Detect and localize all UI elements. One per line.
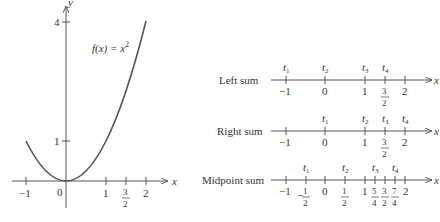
svg-text:1: 1 bbox=[362, 85, 368, 97]
tick-label-3-2-num: 3 bbox=[123, 187, 128, 197]
tick-label-y1: 1 bbox=[54, 135, 60, 147]
tick-label-3-2-den: 2 bbox=[123, 199, 128, 209]
svg-text:5: 5 bbox=[372, 186, 377, 196]
right-sum-diagram: Right sum x t1 t2 t3 t4 −1 0 1 3 2 2 bbox=[217, 112, 439, 159]
x-axis-label: x bbox=[171, 175, 177, 187]
svg-text:t2: t2 bbox=[322, 61, 329, 75]
svg-text:2: 2 bbox=[402, 136, 408, 148]
svg-text:1: 1 bbox=[362, 136, 368, 148]
svg-text:−1: −1 bbox=[279, 136, 291, 148]
svg-text:x: x bbox=[433, 125, 439, 137]
left-sum-diagram: Left sum x t1 t2 t3 t4 −1 0 1 3 2 2 bbox=[219, 61, 439, 108]
function-label: f(x) = x2 bbox=[92, 40, 129, 55]
tick-label-0: 0 bbox=[57, 186, 63, 198]
svg-text:2: 2 bbox=[403, 185, 409, 197]
svg-text:t1: t1 bbox=[322, 112, 329, 126]
svg-text:t2: t2 bbox=[362, 112, 369, 126]
svg-text:1: 1 bbox=[342, 186, 347, 196]
svg-text:2: 2 bbox=[303, 198, 308, 208]
svg-text:t3: t3 bbox=[372, 161, 379, 175]
svg-text:−1: −1 bbox=[279, 185, 291, 197]
svg-text:t4: t4 bbox=[402, 112, 409, 126]
svg-text:x: x bbox=[433, 174, 439, 186]
svg-text:t1: t1 bbox=[303, 161, 310, 175]
y-axis-label: y bbox=[67, 0, 73, 8]
svg-text:t2: t2 bbox=[342, 161, 349, 175]
svg-text:1: 1 bbox=[362, 185, 368, 197]
left-sum-label: Left sum bbox=[219, 74, 259, 86]
svg-text:3: 3 bbox=[382, 186, 387, 196]
svg-text:t3: t3 bbox=[382, 112, 389, 126]
svg-text:x: x bbox=[433, 74, 439, 86]
svg-text:t1: t1 bbox=[283, 61, 290, 75]
svg-text:2: 2 bbox=[382, 198, 387, 208]
svg-text:−1: −1 bbox=[279, 85, 291, 97]
tick-label-y4: 4 bbox=[54, 16, 60, 28]
svg-text:t4: t4 bbox=[392, 161, 399, 175]
midpoint-sum-label: Midpoint sum bbox=[202, 174, 264, 186]
svg-text:4: 4 bbox=[372, 198, 377, 208]
svg-text:t3: t3 bbox=[362, 61, 369, 75]
svg-text:3: 3 bbox=[382, 137, 387, 147]
svg-text:0: 0 bbox=[322, 136, 328, 148]
tick-label-neg1: −1 bbox=[19, 187, 31, 199]
riemann-sum-diagram: x y −1 0 1 3 2 2 1 4 f(x) = x2 Left sum … bbox=[0, 0, 440, 222]
svg-text:4: 4 bbox=[392, 198, 397, 208]
svg-text:2: 2 bbox=[382, 149, 387, 159]
svg-text:t4: t4 bbox=[382, 61, 389, 75]
svg-text:3: 3 bbox=[382, 86, 387, 96]
svg-text:2: 2 bbox=[382, 98, 387, 108]
svg-text:1: 1 bbox=[303, 186, 308, 196]
right-sum-label: Right sum bbox=[217, 125, 263, 137]
svg-text:7: 7 bbox=[392, 186, 397, 196]
svg-text:0: 0 bbox=[322, 185, 328, 197]
svg-text:2: 2 bbox=[402, 85, 408, 97]
svg-text:2: 2 bbox=[342, 198, 347, 208]
tick-label-1: 1 bbox=[103, 187, 109, 199]
svg-text:0: 0 bbox=[322, 85, 328, 97]
function-graph: x y −1 0 1 3 2 2 1 4 f(x) = x2 bbox=[12, 0, 177, 209]
tick-label-2: 2 bbox=[143, 187, 149, 199]
midpoint-sum-diagram: Midpoint sum x t1 t2 t3 t4 −1 − 1 2 0 1 … bbox=[202, 161, 439, 208]
